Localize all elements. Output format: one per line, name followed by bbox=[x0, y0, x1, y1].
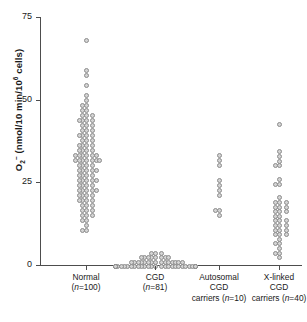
x-group-label-line: X-linked bbox=[243, 272, 307, 282]
data-point bbox=[84, 98, 89, 103]
data-point bbox=[273, 232, 278, 237]
data-point bbox=[217, 158, 222, 163]
data-point bbox=[80, 228, 85, 233]
data-point bbox=[217, 183, 222, 188]
data-point bbox=[97, 158, 102, 163]
data-point bbox=[80, 138, 85, 143]
data-point bbox=[80, 103, 85, 108]
data-point bbox=[77, 178, 82, 183]
data-point bbox=[113, 264, 118, 269]
data-point bbox=[77, 198, 82, 203]
y-tick-mark bbox=[36, 100, 40, 101]
data-point bbox=[90, 123, 95, 128]
data-point bbox=[90, 183, 95, 188]
data-point bbox=[90, 208, 95, 213]
data-point bbox=[77, 118, 82, 123]
data-point bbox=[217, 213, 222, 218]
data-point bbox=[213, 208, 218, 213]
data-point bbox=[80, 128, 85, 133]
y-tick-mark bbox=[36, 265, 40, 266]
y-tick-mark bbox=[36, 17, 40, 18]
data-point bbox=[284, 209, 289, 214]
x-group-label: CGD(n=81) bbox=[119, 272, 191, 293]
data-point bbox=[90, 213, 95, 218]
y-tick-mark bbox=[36, 182, 40, 183]
data-point bbox=[73, 158, 78, 163]
x-group-label-line: Normal bbox=[50, 272, 122, 282]
data-point bbox=[77, 183, 82, 188]
data-point bbox=[217, 178, 222, 183]
data-point bbox=[217, 163, 222, 168]
data-point bbox=[77, 173, 82, 178]
chart-figure: O2– (nmol/10 min/106 cells) 0255075Norma… bbox=[0, 0, 307, 322]
data-point bbox=[90, 133, 95, 138]
x-tick-mark bbox=[219, 266, 220, 270]
x-group-label-line: carriers (n=40) bbox=[243, 293, 307, 303]
data-point bbox=[80, 218, 85, 223]
data-point bbox=[90, 138, 95, 143]
data-point bbox=[217, 193, 222, 198]
data-point bbox=[90, 148, 95, 153]
data-point bbox=[77, 148, 82, 153]
data-point bbox=[77, 188, 82, 193]
y-tick-label: 25 bbox=[6, 177, 32, 186]
data-point bbox=[90, 118, 95, 123]
data-point bbox=[84, 83, 89, 88]
x-group-label-line: (n=100) bbox=[50, 282, 122, 292]
data-point bbox=[77, 168, 82, 173]
data-point bbox=[193, 264, 198, 269]
y-tick-label: 50 bbox=[6, 95, 32, 104]
data-point bbox=[90, 163, 95, 168]
data-point bbox=[284, 232, 289, 237]
data-point bbox=[90, 193, 95, 198]
data-point bbox=[94, 188, 99, 193]
data-point bbox=[73, 153, 78, 158]
data-point bbox=[90, 143, 95, 148]
x-group-label-line: CGD bbox=[243, 282, 307, 292]
data-point bbox=[94, 153, 99, 158]
x-group-label: X-linkedCGDcarriers (n=40) bbox=[243, 272, 307, 303]
x-group-label-line: CGD bbox=[119, 272, 191, 282]
x-group-label-line: (n=81) bbox=[119, 282, 191, 292]
data-point bbox=[90, 173, 95, 178]
data-point bbox=[77, 163, 82, 168]
data-point bbox=[217, 188, 222, 193]
data-point bbox=[84, 73, 89, 78]
data-point bbox=[90, 128, 95, 133]
data-point bbox=[80, 113, 85, 118]
data-point bbox=[80, 123, 85, 128]
y-tick-label: 75 bbox=[6, 12, 32, 21]
data-point bbox=[84, 93, 89, 98]
data-point bbox=[217, 153, 222, 158]
data-point bbox=[90, 113, 95, 118]
data-point bbox=[77, 133, 82, 138]
data-point bbox=[273, 163, 278, 168]
data-point bbox=[277, 255, 282, 260]
data-point bbox=[80, 213, 85, 218]
data-point bbox=[84, 38, 89, 43]
x-tick-mark bbox=[86, 266, 87, 270]
data-point bbox=[77, 143, 82, 148]
x-group-label: Normal(n=100) bbox=[50, 272, 122, 293]
data-point bbox=[80, 208, 85, 213]
y-tick-label: 0 bbox=[6, 260, 32, 269]
data-point bbox=[80, 203, 85, 208]
data-point bbox=[94, 168, 99, 173]
data-point bbox=[84, 223, 89, 228]
data-point bbox=[80, 108, 85, 113]
x-tick-mark bbox=[279, 266, 280, 270]
x-tick-mark bbox=[155, 266, 156, 270]
data-point bbox=[84, 68, 89, 73]
data-point bbox=[90, 198, 95, 203]
data-point bbox=[90, 203, 95, 208]
data-point bbox=[273, 182, 278, 187]
data-point bbox=[94, 178, 99, 183]
data-point bbox=[277, 122, 282, 127]
data-point bbox=[77, 193, 82, 198]
